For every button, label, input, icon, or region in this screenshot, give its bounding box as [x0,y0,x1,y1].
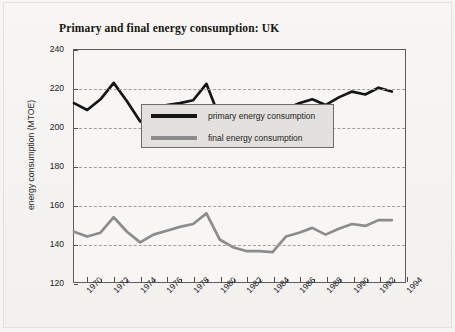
y-tick-mark [74,50,78,51]
x-tick-mark [114,277,115,282]
x-tick-mark [167,277,168,282]
chart-figure: Primary and final energy consumption: UK… [0,0,455,332]
x-tick-mark [274,277,275,282]
x-tick-mark [300,277,301,282]
y-tick-label: 140 [30,239,64,249]
series-lines [74,50,405,282]
gridline [74,245,405,246]
x-tick-mark [380,277,381,282]
legend-item-final: final energy consumption [142,127,333,149]
gridline [74,206,405,207]
line-final-energy [74,213,392,252]
y-tick-mark [74,89,78,90]
y-tick-label: 200 [30,122,64,132]
chart-legend: primary energy consumption final energy … [141,104,334,148]
y-tick-mark [74,245,78,246]
legend-swatch-primary [151,114,197,118]
plot-area [73,49,406,283]
y-tick-mark [74,128,78,129]
legend-label-primary: primary energy consumption [208,111,315,121]
y-tick-label: 160 [30,200,64,210]
y-tick-mark [74,284,78,285]
y-tick-label: 180 [30,161,64,171]
y-tick-label: 120 [30,278,64,288]
y-tick-mark [74,167,78,168]
x-tick-mark [221,277,222,282]
chart-title: Primary and final energy consumption: UK [59,22,279,34]
y-tick-mark [74,206,78,207]
gridline [74,89,405,90]
x-tick-mark [141,277,142,282]
x-tick-mark [194,277,195,282]
legend-label-final: final energy consumption [208,133,303,143]
x-tick-mark [407,277,408,282]
legend-swatch-final [151,136,197,140]
x-tick-mark [354,277,355,282]
y-tick-label: 220 [30,83,64,93]
gridline [74,167,405,168]
x-tick-mark [247,277,248,282]
y-tick-label: 240 [30,44,64,54]
x-tick-mark [87,277,88,282]
legend-item-primary: primary energy consumption [142,105,333,127]
y-axis-title: energy consumption (MTOE) [26,70,36,240]
x-tick-mark [327,277,328,282]
